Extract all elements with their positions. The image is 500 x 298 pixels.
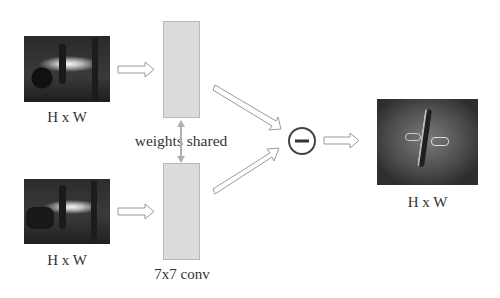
subtract-operator-icon (289, 128, 315, 154)
arrow-input-bottom-to-conv (118, 204, 154, 219)
arrow-input-top-to-conv (118, 62, 154, 77)
weights-shared-arrow (177, 120, 185, 163)
arrow-minus-to-output (324, 133, 359, 148)
arrow-conv-bottom-to-minus (213, 148, 279, 194)
connector-layer (0, 0, 500, 298)
arrow-conv-top-to-minus (213, 85, 281, 130)
